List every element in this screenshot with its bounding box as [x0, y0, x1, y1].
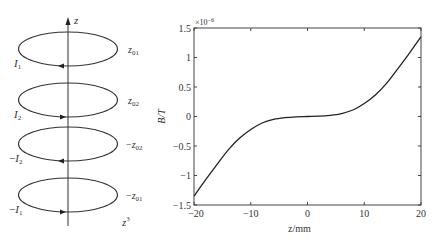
- y-tick-label: 1: [186, 52, 191, 63]
- y-multiplier: ×10−6: [195, 17, 214, 27]
- y-tick-label: −1: [180, 170, 191, 181]
- current-loop: −I2−z02: [9, 127, 143, 166]
- current-label: I1: [13, 57, 22, 71]
- x-tick-label: 20: [416, 208, 426, 219]
- y-axis-label: B/T: [156, 108, 167, 124]
- x-tick-label: 0: [305, 208, 310, 219]
- y-tick-label: 0: [186, 111, 191, 122]
- x-axis-label: z/mm: [288, 223, 311, 234]
- position-label: −z01: [126, 190, 143, 203]
- figure: z I1z01I2z02−I2−z02−I1−z01 z3 −20−100102…: [0, 0, 439, 246]
- z-axis-arrow-icon: [66, 17, 71, 25]
- y-tick-label: −1.5: [173, 200, 191, 211]
- current-loop: I2z02: [13, 83, 139, 122]
- current-direction-arrow-icon: [58, 158, 64, 163]
- current-label: I2: [13, 108, 22, 122]
- y-tick-label: 1.5: [179, 23, 192, 34]
- current-direction-arrow-icon: [60, 209, 66, 214]
- chart: −20−10010201.510.50−0.5−1−1.5×10−6z/mmB/…: [156, 17, 426, 234]
- data-series-line: [194, 37, 421, 196]
- current-label: −I2: [9, 152, 23, 166]
- y-tick-label: −0.5: [173, 141, 191, 152]
- coil-diagram: z I1z01I2z02−I2−z02−I1−z01 z3: [9, 14, 143, 228]
- current-direction-arrow-icon: [58, 63, 64, 68]
- position-label: −z02: [126, 139, 143, 152]
- position-label: z02: [127, 95, 139, 108]
- current-loop: I1z01: [13, 32, 139, 71]
- x-tick-label: −10: [243, 208, 259, 219]
- x-tick-label: 10: [359, 208, 369, 219]
- current-loop: −I1−z01: [9, 178, 143, 217]
- current-label: −I1: [9, 203, 23, 217]
- z-axis-label: z: [73, 14, 79, 26]
- y-tick-label: 0.5: [179, 82, 192, 93]
- position-label: z01: [127, 44, 139, 57]
- field-form-label: z3: [121, 215, 130, 228]
- current-direction-arrow-icon: [60, 114, 66, 119]
